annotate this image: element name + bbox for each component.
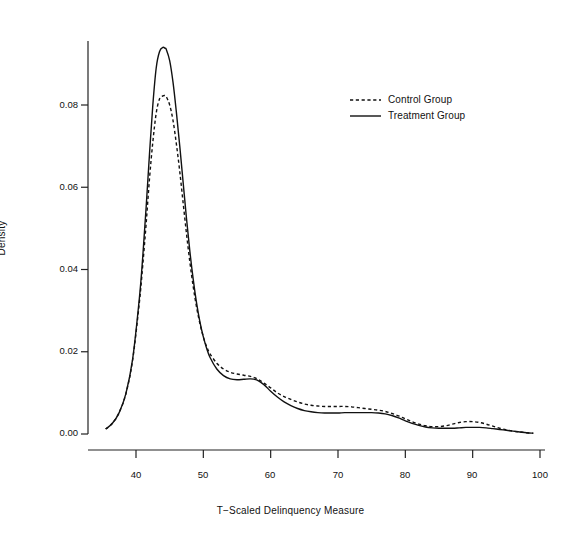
x-tick-marks bbox=[136, 450, 540, 458]
density-plot-figure: Density 0.08 0.06 0.04 0.02 0.00 40 50 6… bbox=[0, 0, 581, 547]
legend-key-samples bbox=[350, 100, 381, 116]
plot-canvas bbox=[0, 0, 581, 547]
y-tick-marks bbox=[81, 105, 88, 434]
series-line-control-group bbox=[106, 95, 534, 433]
axis-lines bbox=[88, 41, 545, 450]
